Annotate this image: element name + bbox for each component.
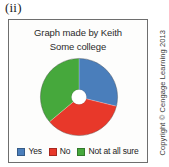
chart-subtitle: Some college — [9, 41, 147, 52]
legend-swatch-icon — [17, 148, 25, 156]
legend-item-label: No — [60, 147, 71, 156]
legend-swatch-icon — [77, 148, 85, 156]
figure-label: (ii) — [5, 1, 22, 15]
pie-chart-svg — [39, 57, 119, 137]
legend-swatch-icon — [49, 148, 57, 156]
legend-item-yes[interactable]: Yes — [17, 147, 41, 156]
legend-item-label: Not at all sure — [88, 147, 138, 156]
pie-chart — [39, 57, 119, 137]
legend-item-not-at-all-sure[interactable]: Not at all sure — [77, 147, 138, 156]
copyright-label: Copyright © Cengage Learning 2013 — [158, 26, 167, 156]
chart-title: Graph made by Keith — [9, 27, 147, 38]
copyright-notice: Copyright © Cengage Learning 2013 — [154, 24, 168, 158]
legend-item-no[interactable]: No — [49, 147, 71, 156]
legend-item-label: Yes — [28, 147, 41, 156]
chart-legend: YesNoNot at all sure — [9, 147, 147, 156]
figure-container: (ii) Graph made by Keith Some college Ye… — [0, 0, 169, 167]
pie-center-hole — [71, 89, 86, 104]
chart-frame: Graph made by Keith Some college YesNoNo… — [8, 19, 148, 163]
